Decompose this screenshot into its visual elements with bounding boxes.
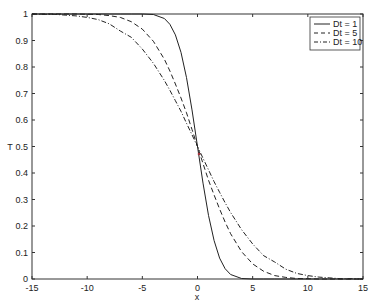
- y-tick-label: 0.8: [15, 62, 28, 72]
- x-tick-label: -15: [25, 283, 38, 293]
- y-tick-label: 0.6: [15, 115, 28, 125]
- center-marker: [198, 153, 201, 156]
- y-tick-label: 0.9: [15, 36, 28, 46]
- x-tick-label: 10: [303, 283, 313, 293]
- y-tick-label: 1: [23, 9, 28, 19]
- y-tick-label: 0.1: [15, 248, 28, 258]
- x-tick-label: 5: [250, 283, 255, 293]
- y-tick-label: 0.5: [15, 142, 28, 152]
- x-tick-label: -5: [138, 283, 146, 293]
- y-tick-label: 0.2: [15, 221, 28, 231]
- chart: -15-10-5051015 00.10.20.30.40.50.60.70.8…: [0, 0, 381, 307]
- y-tick-label: 0.3: [15, 195, 28, 205]
- y-axis-label: T: [7, 142, 13, 152]
- x-tick-label: 15: [358, 283, 368, 293]
- y-tick-label: 0.4: [15, 168, 28, 178]
- legend: Dt = 1 Dt = 5 Dt = 10: [310, 17, 362, 50]
- y-tick-label: 0: [23, 274, 28, 284]
- x-tick-label: -10: [81, 283, 94, 293]
- legend-label-dt10: Dt = 10: [333, 37, 362, 47]
- y-tick-label: 0.7: [15, 89, 28, 99]
- x-axis-label: x: [195, 292, 200, 302]
